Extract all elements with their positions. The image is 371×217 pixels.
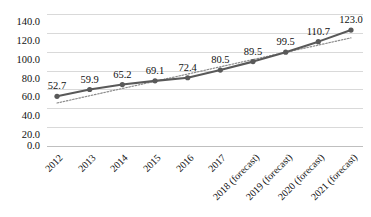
data-point-marker (54, 94, 59, 99)
data-point-marker (87, 87, 92, 92)
data-point-marker (316, 39, 321, 44)
y-axis-tick-label: 0.0 (0, 141, 40, 152)
data-label: 123.0 (339, 14, 363, 25)
data-label: 65.2 (113, 69, 131, 80)
gridline (47, 146, 363, 147)
y-axis-tick-label: 40.0 (0, 111, 40, 122)
plot-area: 52.759.965.269.172.480.589.599.5110.7123… (47, 14, 363, 146)
y-axis-tick-label: 80.0 (0, 74, 40, 85)
y-axis-tick-label: 120.0 (0, 36, 40, 47)
data-point-marker (250, 59, 255, 64)
y-axis-tick-label: 140.0 (0, 17, 40, 28)
data-label: 52.7 (48, 80, 66, 91)
data-point-marker (152, 78, 157, 83)
data-point-marker (348, 27, 353, 32)
x-axis-tick-labels: 2012201320142015201620172018 (forecast)2… (47, 148, 363, 217)
data-label: 59.9 (80, 74, 98, 85)
data-label: 69.1 (146, 65, 164, 76)
trendline (57, 38, 351, 103)
series-line (57, 30, 351, 96)
y-axis-tick-label: 100.0 (0, 55, 40, 66)
line-chart: 140.0 120.0 100.0 80.0 60.0 40.0 20.0 0.… (0, 0, 371, 217)
data-label: 89.5 (244, 46, 262, 57)
data-label: 99.5 (276, 36, 294, 47)
data-point-marker (218, 68, 223, 73)
y-axis-tick-label: 60.0 (0, 92, 40, 103)
data-label: 80.5 (211, 54, 229, 65)
data-label: 110.7 (307, 26, 330, 37)
data-point-marker (120, 82, 125, 87)
data-label: 72.4 (178, 62, 196, 73)
data-point-marker (283, 50, 288, 55)
data-point-marker (185, 75, 190, 80)
